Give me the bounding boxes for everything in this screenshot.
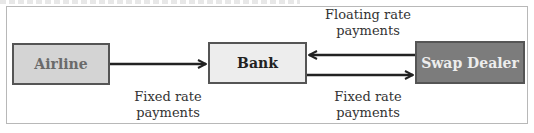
edge-label-line: Fixed rate [123,89,213,105]
edge-label-line: payments [318,23,418,39]
node-swap-dealer-label: Swap Dealer [421,55,519,71]
edge-label-line: payments [318,105,418,121]
node-swap-dealer: Swap Dealer [415,41,525,84]
node-bank-label: Bank [237,55,278,71]
edge-label-airline-bank: Fixed rate payments [123,89,213,121]
edge-label-line: Floating rate [318,7,418,23]
edge-label-line: payments [123,105,213,121]
node-airline-label: Airline [34,56,87,72]
node-airline: Airline [12,43,110,85]
edge-label-bank-dealer: Fixed rate payments [318,89,418,121]
node-bank: Bank [208,42,307,84]
edge-label-line: Fixed rate [318,89,418,105]
edge-label-dealer-bank: Floating rate payments [318,7,418,39]
